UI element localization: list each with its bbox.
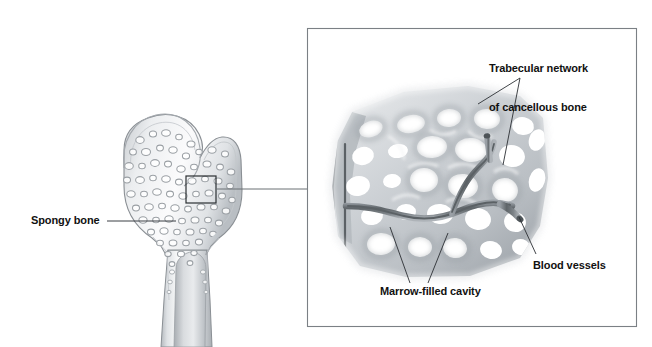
bone-diagram-figure: Spongy bone Trabecular network of cancel…: [0, 0, 652, 347]
label-marrow-filled-cavity: Marrow-filled cavity: [380, 285, 481, 298]
label-trabecular-line1: Trabecular network: [489, 62, 588, 75]
label-blood-vessels: Blood vessels: [533, 259, 606, 272]
medullary-cavity: [174, 252, 206, 347]
label-trabecular-network: Trabecular network of cancellous bone: [489, 36, 588, 140]
label-spongy-bone: Spongy bone: [31, 214, 100, 227]
femur-body: [124, 114, 242, 347]
femur-proximal-outline: [124, 115, 242, 255]
label-trabecular-line2: of cancellous bone: [489, 101, 588, 114]
femur-illustration: [124, 114, 243, 347]
